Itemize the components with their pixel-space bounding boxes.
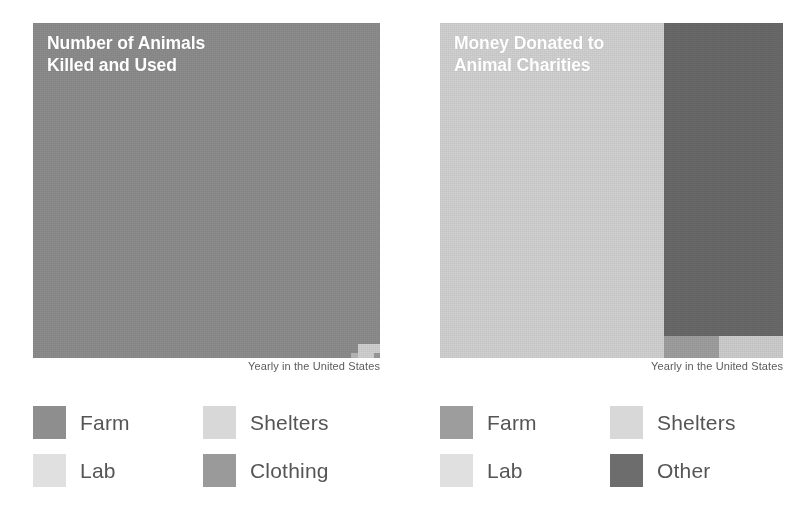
legend-swatch-shelters xyxy=(610,406,643,439)
legend-item-farm[interactable]: Farm xyxy=(440,406,610,439)
legend-item-clothing[interactable]: Clothing xyxy=(203,454,383,487)
legend-item-shelters[interactable]: Shelters xyxy=(203,406,383,439)
legend-swatch-lab xyxy=(33,454,66,487)
chart-caption: Yearly in the United States xyxy=(440,360,783,372)
legend-swatch-shelters xyxy=(203,406,236,439)
legend-label-farm: Farm xyxy=(80,412,130,433)
treemap-animals-killed: Number of Animals Killed and Used xyxy=(33,23,380,358)
chart-panel-animals-killed: Number of Animals Killed and Used Yearly… xyxy=(0,0,404,520)
segment-clothing[interactable] xyxy=(374,353,380,358)
infographic-page: Number of Animals Killed and Used Yearly… xyxy=(0,0,807,520)
legend-label-lab: Lab xyxy=(487,460,523,481)
chart-title: Money Donated to Animal Charities xyxy=(454,33,604,76)
segment-other[interactable] xyxy=(664,23,783,336)
segment-lab[interactable] xyxy=(351,353,358,358)
chart-caption: Yearly in the United States xyxy=(33,360,380,372)
legend-item-shelters[interactable]: Shelters xyxy=(610,406,790,439)
legend-item-lab[interactable]: Lab xyxy=(440,454,610,487)
legend-label-shelters: Shelters xyxy=(657,412,736,433)
chart-legend: Farm Shelters Lab Clothing xyxy=(33,398,383,494)
legend-item-other[interactable]: Other xyxy=(610,454,790,487)
legend-label-farm: Farm xyxy=(487,412,537,433)
treemap-money-donated: Money Donated to Animal Charities xyxy=(440,23,783,358)
legend-swatch-farm xyxy=(440,406,473,439)
legend-item-farm[interactable]: Farm xyxy=(33,406,203,439)
legend-swatch-other xyxy=(610,454,643,487)
legend-swatch-lab xyxy=(440,454,473,487)
legend-label-other: Other xyxy=(657,460,711,481)
legend-label-clothing: Clothing xyxy=(250,460,329,481)
legend-swatch-clothing xyxy=(203,454,236,487)
chart-title: Number of Animals Killed and Used xyxy=(47,33,205,76)
chart-panel-money-donated: Money Donated to Animal Charities Yearly… xyxy=(403,0,807,520)
legend-item-lab[interactable]: Lab xyxy=(33,454,203,487)
segment-farm[interactable] xyxy=(664,336,719,358)
legend-swatch-farm xyxy=(33,406,66,439)
chart-legend: Farm Shelters Lab Other xyxy=(440,398,790,494)
segment-lab[interactable] xyxy=(719,336,783,358)
legend-label-lab: Lab xyxy=(80,460,116,481)
legend-label-shelters: Shelters xyxy=(250,412,329,433)
